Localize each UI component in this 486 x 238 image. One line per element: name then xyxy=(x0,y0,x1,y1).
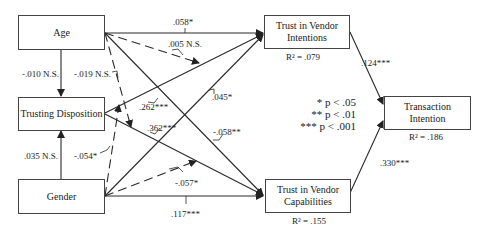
path-label-gender-tvi: .045* xyxy=(212,92,232,102)
node-transaction-intention: Transaction Intention xyxy=(384,96,471,130)
path-label-tvi-ti: .124*** xyxy=(361,58,390,68)
path-label-gender-td: .035 N.S. xyxy=(24,151,58,161)
path-label-age-tvi: .058* xyxy=(173,17,193,27)
node-trust-vendor-capabilities: Trust in Vendor Capabilities xyxy=(265,179,351,213)
significance-legend: * p < .05 ** p < .01 *** p < .001 xyxy=(286,96,356,132)
path-label-gender-tvc: .117*** xyxy=(171,209,200,219)
node-trusting-disposition-label: Trusting Disposition xyxy=(20,108,102,120)
path-label-age-mod-td-tvi: .005 N.S. xyxy=(168,39,202,49)
tvc-r-squared: R² = .155 xyxy=(292,216,326,226)
path-label-td-tvc: .362*** xyxy=(147,123,176,133)
path-label-age-mod-td-tvc: -.019 N.S. xyxy=(74,69,111,79)
node-tvc-label: Trust in Vendor Capabilities xyxy=(274,184,342,208)
node-gender-label: Gender xyxy=(47,191,76,203)
ti-r-squared: R² = .186 xyxy=(409,132,443,142)
node-age-label: Age xyxy=(53,27,70,39)
path-label-age-tvc: -.058** xyxy=(213,127,241,137)
node-ti-label: Transaction Intention xyxy=(385,101,470,125)
legend-p01: ** p < .01 xyxy=(286,108,356,120)
node-age: Age xyxy=(18,15,105,50)
path-label-gender-mod-td-tvc: -.057* xyxy=(175,178,198,188)
node-tvi-label: Trust in Vendor Intentions xyxy=(273,20,341,44)
legend-p05: * p < .05 xyxy=(286,96,356,108)
legend-p001: *** p < .001 xyxy=(286,120,356,132)
node-trust-vendor-intentions: Trust in Vendor Intentions xyxy=(264,15,350,49)
tvi-r-squared: R² = .079 xyxy=(286,52,320,62)
path-label-tvc-ti: .330*** xyxy=(380,158,409,168)
node-trusting-disposition: Trusting Disposition xyxy=(18,97,105,131)
path-label-gender-mod-td-tvi: -.054* xyxy=(74,151,97,161)
path-label-td-tvi: .262*** xyxy=(139,102,168,112)
path-label-age-td: -.010 N.S. xyxy=(22,69,59,79)
node-gender: Gender xyxy=(18,179,105,214)
